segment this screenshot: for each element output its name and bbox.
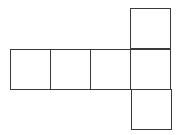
net-square-bottom	[131, 89, 172, 130]
net-square-row-1	[10, 49, 51, 90]
net-square-row-4	[130, 49, 171, 90]
net-square-row-3	[90, 49, 131, 90]
cube-net-diagram	[0, 0, 180, 135]
net-square-top	[130, 8, 171, 49]
net-square-row-2	[50, 49, 91, 90]
